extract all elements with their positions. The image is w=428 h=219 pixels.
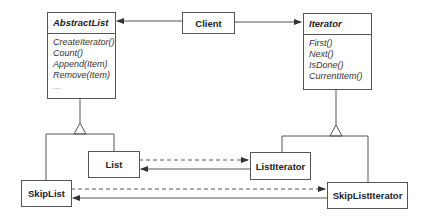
class-skiplistiterator: SkipListIterator xyxy=(327,182,408,209)
class-list: List xyxy=(88,151,140,178)
class-name: Client xyxy=(195,18,221,29)
class-name: AbstractList xyxy=(48,13,115,34)
operation: CreateIterator() xyxy=(53,37,115,48)
class-name: SkipListIterator xyxy=(333,190,403,201)
operation: IsDone() xyxy=(309,60,371,71)
operation: ... xyxy=(53,81,115,92)
operation: Remove(Item) xyxy=(53,70,115,81)
class-name: ListIterator xyxy=(256,161,306,172)
class-iterator: Iterator First() Next() IsDone() Current… xyxy=(303,13,372,90)
class-skiplist: SkipList xyxy=(21,180,72,207)
class-name: SkipList xyxy=(28,188,65,199)
operation: Next() xyxy=(309,49,371,60)
class-name: List xyxy=(106,159,123,170)
operation: Append(Item) xyxy=(53,59,115,70)
inheritance-triangle-icon xyxy=(330,125,342,136)
class-client: Client xyxy=(182,12,235,34)
operation: First() xyxy=(309,38,371,49)
inheritance-triangle-icon xyxy=(74,123,86,134)
class-name: Iterator xyxy=(304,14,371,35)
class-abstractlist: AbstractList CreateIterator() Count() Ap… xyxy=(47,12,116,99)
class-listiterator: ListIterator xyxy=(250,152,311,180)
operation: CurrentItem() xyxy=(309,71,371,82)
operations-list: CreateIterator() Count() Append(Item) Re… xyxy=(48,34,115,92)
operations-list: First() Next() IsDone() CurrentItem() xyxy=(304,35,371,82)
operation: Count() xyxy=(53,48,115,59)
